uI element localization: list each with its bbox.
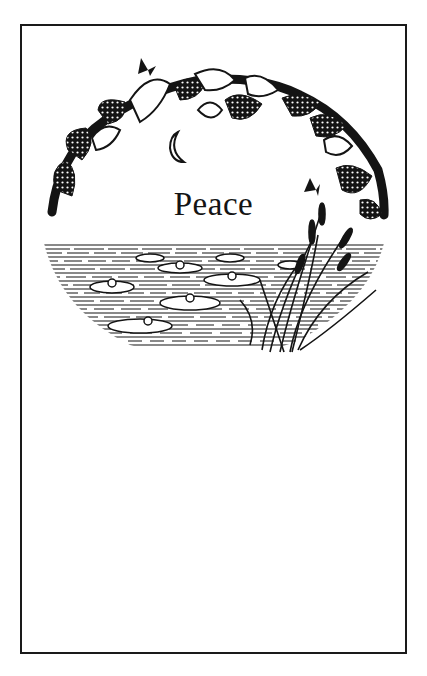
crescent-moon [170,132,184,162]
pond-water [40,240,390,380]
butterfly-top-left [138,58,156,76]
card-title: Peace [0,186,427,223]
illustration [0,0,427,676]
